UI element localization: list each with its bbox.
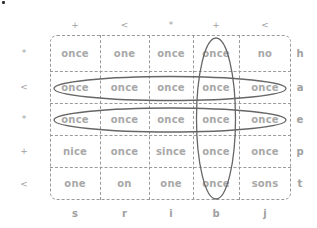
grid-cell: once (193, 135, 239, 167)
bottom-label: j (255, 206, 275, 220)
bottom-label: r (115, 206, 135, 220)
grid-cell: once (193, 167, 239, 200)
top-label: < (255, 18, 275, 32)
grid-cell: once (239, 135, 291, 167)
top-label: * (161, 18, 181, 32)
grid-cell: one (149, 167, 193, 200)
right-label: e (290, 112, 310, 126)
bottom-label: b (206, 206, 226, 220)
right-label: h (290, 46, 310, 60)
grid-cell: once (149, 71, 193, 103)
left-label: < (14, 80, 34, 94)
grid-cell: once (100, 103, 149, 135)
left-label: + (14, 144, 34, 158)
grid-cell: once (239, 71, 291, 103)
top-label: + (206, 18, 226, 32)
grid-cell: sons (239, 167, 291, 200)
left-label: * (14, 46, 34, 60)
grid-cell: once (149, 35, 193, 71)
bottom-label: i (161, 206, 181, 220)
top-label: < (115, 18, 135, 32)
grid-cell: one (50, 167, 100, 200)
grid-cell: once (193, 35, 239, 71)
bottom-label: s (65, 206, 85, 220)
grid-cell: once (193, 103, 239, 135)
right-label: t (290, 177, 310, 191)
grid-cell: once (193, 71, 239, 103)
grid-cell: once (50, 71, 100, 103)
grid-cell: no (239, 35, 291, 71)
right-label: a (290, 80, 310, 94)
grid-cell: once (50, 35, 100, 71)
grid-cell: once (100, 135, 149, 167)
grid-cell: once (149, 103, 193, 135)
grid-cell: on (100, 167, 149, 200)
grid-cell: once (100, 71, 149, 103)
corner-mark (2, 1, 5, 4)
grid-cell: once (239, 103, 291, 135)
grid-cell: since (149, 135, 193, 167)
grid-cell: once (50, 103, 100, 135)
left-label: * (14, 112, 34, 126)
right-label: p (290, 144, 310, 158)
grid-cell: one (100, 35, 149, 71)
left-label: < (14, 177, 34, 191)
top-label: + (65, 18, 85, 32)
grid-cell: nice (50, 135, 100, 167)
